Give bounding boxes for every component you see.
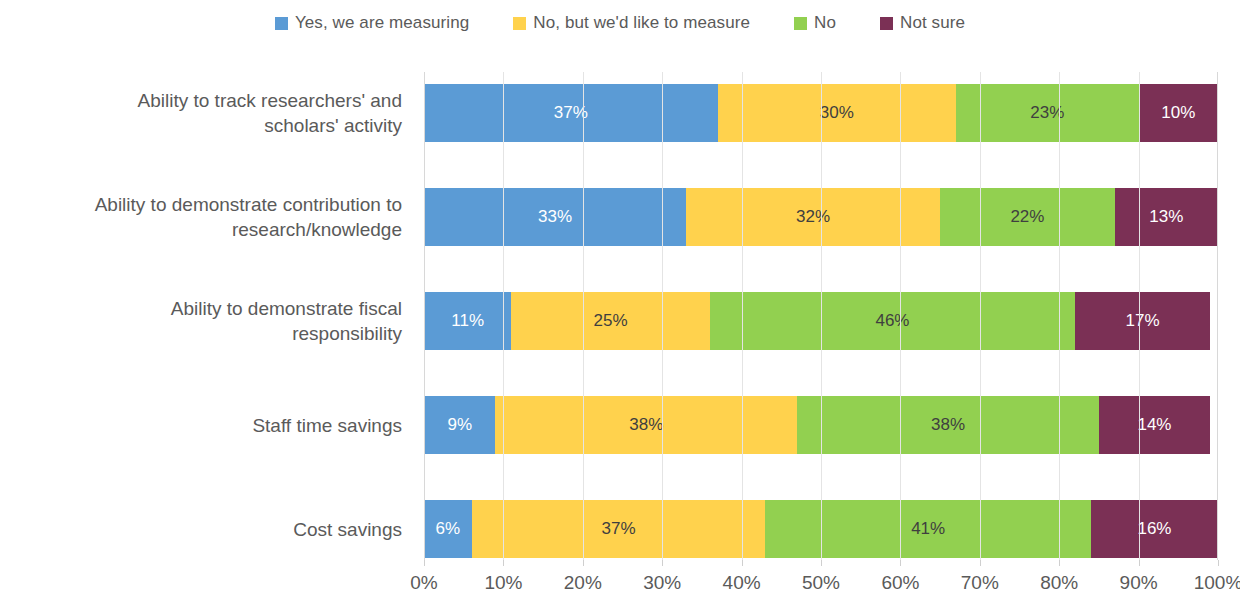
bar-segment-value-label: 37% (554, 103, 588, 123)
category-label: Ability to demonstrate fiscalresponsibil… (0, 292, 402, 350)
axis-tick-mark (980, 560, 981, 566)
axis-tick-label: 0% (410, 572, 437, 594)
bar-rows: 37%30%23%10%33%32%22%13%11%25%46%17%9%38… (424, 72, 1218, 560)
bar-segment[interactable]: 38% (797, 396, 1099, 454)
bar-segment[interactable]: 9% (424, 396, 495, 454)
bar-segment-value-label: 37% (601, 519, 635, 539)
category-label: Cost savings (0, 500, 402, 558)
bar-row: 6%37%41%16% (424, 500, 1218, 558)
axis-tick-label: 30% (643, 572, 681, 594)
bar-segment-value-label: 6% (436, 519, 461, 539)
bar-segment[interactable]: 33% (424, 188, 686, 246)
chart-legend: Yes, we are measuringNo, but we'd like t… (0, 8, 1240, 38)
legend-item[interactable]: No, but we'd like to measure (513, 13, 750, 33)
bar-segment-value-label: 41% (911, 519, 945, 539)
category-label-line: Ability to track researchers' and (138, 88, 402, 113)
bar-segment-value-label: 16% (1137, 519, 1171, 539)
value-axis: 0%10%20%30%40%50%60%70%80%90%100% (424, 560, 1218, 604)
category-label-line: scholars' activity (138, 113, 402, 138)
category-label-line: Cost savings (293, 517, 402, 542)
axis-tick-mark (1218, 560, 1219, 566)
category-label-line: Staff time savings (252, 413, 402, 438)
bar-segment-value-label: 11% (451, 311, 484, 331)
axis-tick-label: 10% (484, 572, 522, 594)
bar-row: 33%32%22%13% (424, 188, 1218, 246)
bar-segment[interactable]: 14% (1099, 396, 1210, 454)
square-swatch-icon (794, 17, 807, 30)
legend-item-label: Yes, we are measuring (295, 13, 469, 33)
axis-tick-label: 90% (1120, 572, 1158, 594)
bar-segment[interactable]: 23% (956, 84, 1139, 142)
axis-tick-label: 20% (564, 572, 602, 594)
category-label-line: Ability to demonstrate fiscal (171, 296, 402, 321)
bar-segment[interactable]: 13% (1115, 188, 1218, 246)
square-swatch-icon (513, 17, 526, 30)
bar-segment[interactable]: 25% (511, 292, 710, 350)
category-label-line: research/knowledge (95, 217, 402, 242)
axis-tick-mark (900, 560, 901, 566)
bar-segment-value-label: 25% (594, 311, 628, 331)
axis-tick-mark (662, 560, 663, 566)
bar-segment[interactable]: 11% (424, 292, 511, 350)
axis-tick-mark (742, 560, 743, 566)
bar-segment[interactable]: 37% (424, 84, 718, 142)
axis-tick-label: 80% (1040, 572, 1078, 594)
bar-segment[interactable]: 46% (710, 292, 1075, 350)
legend-item[interactable]: Not sure (880, 13, 965, 33)
bar-segment-value-label: 30% (820, 103, 854, 123)
axis-tick-mark (1139, 560, 1140, 566)
legend-item[interactable]: Yes, we are measuring (275, 13, 469, 33)
bar-segment-value-label: 17% (1126, 311, 1160, 331)
bar-segment-value-label: 38% (629, 415, 663, 435)
bar-segment-value-label: 10% (1161, 103, 1195, 123)
axis-tick-mark (424, 560, 425, 566)
bar-segment[interactable]: 10% (1139, 84, 1218, 142)
category-label: Ability to track researchers' andscholar… (0, 84, 402, 142)
bar-segment[interactable]: 17% (1075, 292, 1210, 350)
legend-item-label: No (814, 13, 836, 33)
bar-row: 9%38%38%14% (424, 396, 1218, 454)
category-label: Staff time savings (0, 396, 402, 454)
category-axis-labels: Ability to track researchers' andscholar… (0, 72, 414, 560)
bar-segment[interactable]: 37% (472, 500, 766, 558)
bar-segment[interactable]: 32% (686, 188, 940, 246)
axis-tick-label: 40% (723, 572, 761, 594)
bar-row: 11%25%46%17% (424, 292, 1218, 350)
bar-segment-value-label: 46% (875, 311, 909, 331)
axis-tick-label: 60% (881, 572, 919, 594)
plot-area: 37%30%23%10%33%32%22%13%11%25%46%17%9%38… (424, 72, 1218, 560)
bar-segment[interactable]: 6% (424, 500, 472, 558)
legend-item-label: Not sure (900, 13, 965, 33)
bar-segment[interactable]: 38% (495, 396, 797, 454)
category-label-line: responsibility (171, 321, 402, 346)
bar-row: 37%30%23%10% (424, 84, 1218, 142)
bar-segment[interactable]: 41% (765, 500, 1091, 558)
legend-item-label: No, but we'd like to measure (533, 13, 750, 33)
axis-tick-mark (1059, 560, 1060, 566)
axis-tick-mark (821, 560, 822, 566)
category-label-line: Ability to demonstrate contribution to (95, 192, 402, 217)
bar-segment-value-label: 33% (538, 207, 572, 227)
bar-segment[interactable]: 30% (718, 84, 956, 142)
bar-segment-value-label: 9% (447, 415, 472, 435)
bar-segment-value-label: 14% (1137, 415, 1171, 435)
bar-segment-value-label: 32% (796, 207, 830, 227)
axis-tick-label: 70% (961, 572, 999, 594)
axis-tick-label: 100% (1194, 572, 1240, 594)
axis-tick-mark (503, 560, 504, 566)
axis-tick-mark (583, 560, 584, 566)
bar-segment-value-label: 23% (1030, 103, 1064, 123)
bar-segment-value-label: 38% (931, 415, 965, 435)
bar-segment[interactable]: 16% (1091, 500, 1218, 558)
bar-segment-value-label: 13% (1149, 207, 1183, 227)
axis-tick-label: 50% (802, 572, 840, 594)
bar-segment[interactable]: 22% (940, 188, 1115, 246)
square-swatch-icon (275, 17, 288, 30)
stacked-bar-chart: Yes, we are measuringNo, but we'd like t… (0, 0, 1240, 609)
bar-segment-value-label: 22% (1010, 207, 1044, 227)
legend-item[interactable]: No (794, 13, 836, 33)
category-label: Ability to demonstrate contribution tore… (0, 188, 402, 246)
square-swatch-icon (880, 17, 893, 30)
